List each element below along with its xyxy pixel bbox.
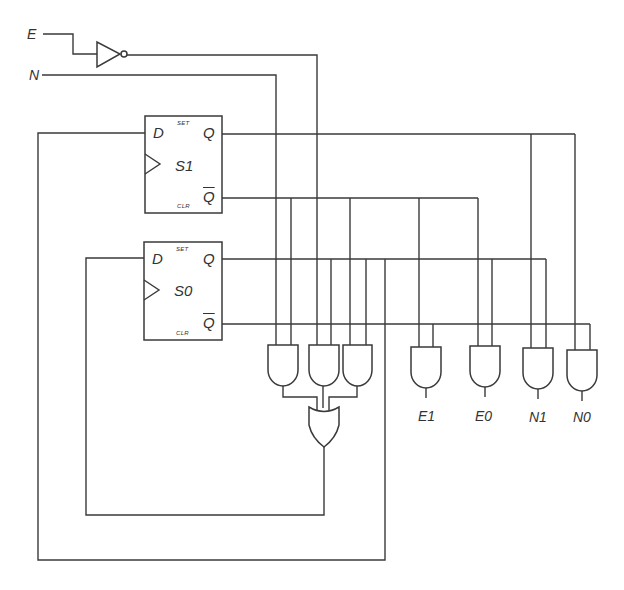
and-gate-e1 [411,347,441,388]
s1-set-label: SET [177,120,190,126]
output-label-n0: N0 [573,409,591,425]
wire-and1-or [283,386,317,410]
output-label-e0: E0 [475,408,492,424]
s0-name: S0 [174,282,192,299]
output-label-n1: N1 [529,409,547,425]
circuit-diagram: E N D SET Q S1 Q CLR D SET Q S0 Q CLR E1… [0,0,624,590]
input-label-e: E [27,26,36,42]
inverter-gate [97,42,120,67]
s0-set-label: SET [176,246,189,252]
s0-qbar-pin: Q [203,314,215,331]
and-gate-3 [343,345,372,386]
wire-e-input [43,34,97,54]
and-gate-n1 [523,348,553,389]
s1-q-pin: Q [203,124,215,141]
s1-d-pin: D [153,124,164,141]
input-label-n: N [29,67,39,83]
s1-clr-label: CLR [177,203,190,209]
circuit-wiring [0,0,624,590]
and-gate-n0 [567,350,597,391]
and-gate-2 [309,345,339,386]
and-gate-e0 [470,346,500,387]
s0-clr-label: CLR [176,330,189,336]
s0-q-pin: Q [203,250,215,267]
s0-d-pin: D [152,250,163,267]
inverter-bubble [121,51,127,57]
s1-qbar-pin: Q [203,188,215,205]
s1-name: S1 [175,157,193,174]
output-label-e1: E1 [418,408,435,424]
or-gate [309,407,339,447]
wire-and3-or [329,386,357,410]
and-gate-1 [268,345,298,386]
